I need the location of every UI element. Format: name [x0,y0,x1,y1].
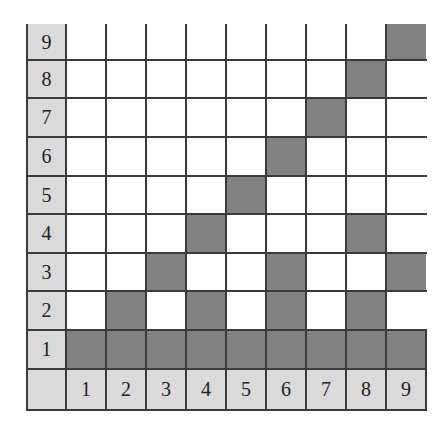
grid-line-horizontal [27,59,427,61]
row-label: 4 [27,214,66,253]
shaded-cell [346,60,386,98]
grid-line-horizontal [27,290,427,292]
grid-line-vertical [425,330,427,411]
shaded-cell [186,330,226,369]
grid-line-horizontal [27,329,427,331]
shaded-cell [386,253,426,291]
col-label: 3 [146,369,186,410]
grid-line-vertical [345,24,347,411]
col-label: 8 [346,369,386,410]
shaded-cell [226,330,266,369]
grid-line-horizontal [27,213,427,215]
row-label: 7 [27,98,66,137]
grid-line-vertical [225,24,227,411]
corner-cell [27,369,66,410]
grid-line-horizontal [27,409,427,411]
shaded-cell [306,98,346,137]
col-label: 9 [386,369,426,410]
shaded-cell [226,176,266,214]
grid-line-vertical [185,24,187,411]
col-label: 2 [106,369,146,410]
shaded-cell [266,330,306,369]
col-label: 5 [226,369,266,410]
grid-line-vertical [385,24,387,411]
shaded-cell [266,291,306,330]
row-label: 6 [27,137,66,176]
shaded-cell [186,291,226,330]
shaded-cell [146,330,186,369]
row-label: 2 [27,291,66,330]
shaded-cell [346,330,386,369]
shaded-cell [266,253,306,291]
shaded-cell [386,330,426,369]
shaded-cell [66,330,106,369]
grid-line-horizontal [27,252,427,254]
shaded-cell [186,214,226,253]
grid-line-vertical [105,24,107,411]
col-label: 1 [66,369,106,410]
shaded-cell [266,137,306,176]
col-label: 6 [266,369,306,410]
shaded-cell [306,330,346,369]
shaded-cell [146,253,186,291]
grid-line-vertical [26,24,28,411]
col-label: 4 [186,369,226,410]
grid-line-vertical [65,24,67,411]
row-label: 8 [27,60,66,98]
shaded-cell [386,24,426,60]
grid-line-horizontal [27,97,427,99]
grid-line-horizontal [27,136,427,138]
divisor-grid: 123456789123456789 [0,0,447,429]
shaded-cell [106,291,146,330]
shaded-cell [346,291,386,330]
row-label: 9 [27,24,66,60]
shaded-cell [346,214,386,253]
row-label: 3 [27,253,66,291]
col-label: 7 [306,369,346,410]
row-label: 5 [27,176,66,214]
grid-line-vertical [145,24,147,411]
grid-line-horizontal [27,368,427,370]
shaded-cell [106,330,146,369]
row-label: 1 [27,330,66,369]
grid-line-vertical [265,24,267,411]
grid-line-horizontal [27,175,427,177]
grid-line-vertical [305,24,307,411]
